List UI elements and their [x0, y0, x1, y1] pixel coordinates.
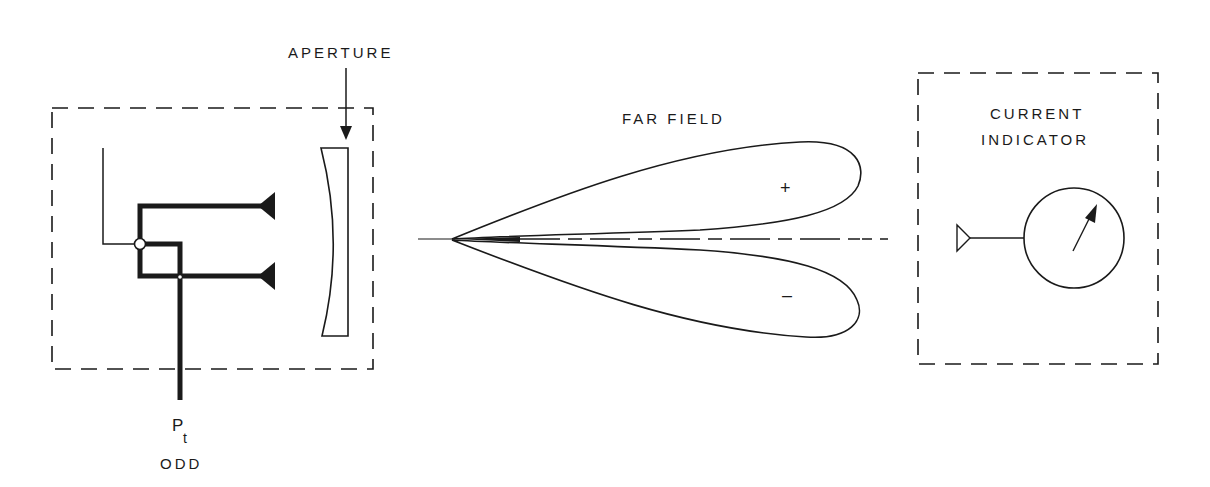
- aperture-lens: [321, 148, 348, 336]
- power-label: P: [172, 416, 183, 435]
- power-subscript: t: [183, 430, 187, 446]
- antenna-odd-mode-diagram: APERTURE P t ODD FAR FIELD: [0, 0, 1210, 487]
- feed-network: [103, 148, 262, 400]
- current-meter-dial-icon: [1024, 188, 1124, 288]
- aperture-label: APERTURE: [288, 44, 393, 61]
- receiver-title-line2: INDICATOR: [981, 131, 1089, 148]
- aperture-arrow-icon: [340, 68, 352, 140]
- receiver-title-line1: CURRENT: [990, 105, 1084, 122]
- upper-lobe: [452, 142, 861, 239]
- upper-horn-icon: [258, 192, 275, 220]
- transmitter-enclosure: [52, 108, 373, 369]
- mode-label: ODD: [160, 455, 202, 472]
- meter-needle-icon: [1073, 204, 1097, 251]
- lower-horn-icon: [258, 262, 275, 290]
- receive-horn-icon: [957, 225, 970, 251]
- lower-lobe: [452, 240, 859, 337]
- far-field-pattern: [418, 142, 888, 338]
- hybrid-junction-icon: [135, 239, 146, 250]
- far-field-title: FAR FIELD: [622, 110, 725, 127]
- upper-lobe-sign: +: [780, 178, 791, 198]
- lower-lobe-sign: –: [782, 285, 792, 305]
